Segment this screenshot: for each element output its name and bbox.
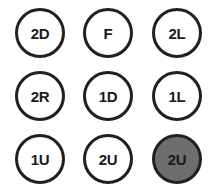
circle-button-label: 2U xyxy=(99,151,118,166)
circle-button-2u-selected[interactable]: 2U xyxy=(152,134,202,184)
circle-button-2d[interactable]: 2D xyxy=(15,8,65,58)
circle-button-2l[interactable]: 2L xyxy=(152,8,202,58)
circle-button-f[interactable]: F xyxy=(83,8,133,58)
circle-button-label: 1L xyxy=(169,88,186,103)
circle-button-grid: 2D F 2L 2R 1D 1L 1U 2U 2U xyxy=(0,0,212,191)
circle-button-label: 2L xyxy=(169,25,186,40)
circle-button-1d[interactable]: 1D xyxy=(83,71,133,121)
circle-button-1l[interactable]: 1L xyxy=(152,71,202,121)
circle-button-label: 2U xyxy=(168,151,187,166)
circle-button-label: 1D xyxy=(99,88,118,103)
circle-button-label: F xyxy=(104,25,113,40)
circle-button-label: 2R xyxy=(31,88,50,103)
circle-button-2u[interactable]: 2U xyxy=(83,134,133,184)
circle-button-label: 1U xyxy=(31,151,50,166)
circle-button-1u[interactable]: 1U xyxy=(15,134,65,184)
circle-button-2r[interactable]: 2R xyxy=(15,71,65,121)
circle-button-label: 2D xyxy=(31,25,50,40)
